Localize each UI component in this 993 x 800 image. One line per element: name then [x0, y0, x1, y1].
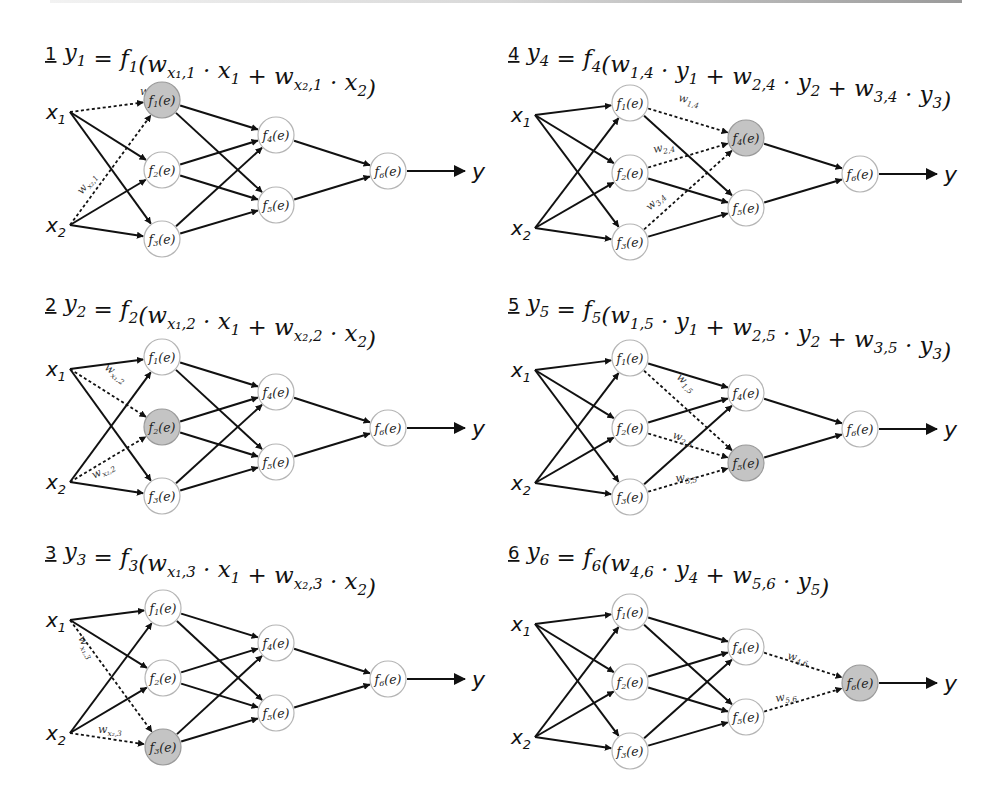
edge-x1-f1: [535, 105, 611, 115]
neuron-f1: f1(e): [612, 340, 648, 376]
neuron-label: f2(e): [148, 163, 176, 179]
step-equation: 2 y2 = f2(wx₁,2 · x1 + wx₂,2 · x2): [45, 290, 376, 352]
neuron-f2: f2(e): [612, 664, 648, 700]
step-number: 2: [45, 294, 56, 315]
neuron-f4: f4(e): [258, 374, 294, 410]
edge-x2-f3: [70, 225, 143, 236]
weight-label: wx₂,1: [74, 170, 100, 198]
input-label-x2: x2: [45, 470, 66, 497]
neuron-label: f6(e): [846, 167, 874, 183]
output-label-y: y: [471, 667, 486, 692]
edge-f5-f6: [294, 434, 370, 457]
edge-f3-f5: [648, 213, 728, 236]
neuron-f1: f1(e): [144, 339, 180, 375]
neuron-f4: f4(e): [258, 625, 294, 661]
step-equation: 6 y6 = f6(w4,6 · y4 + w5,6 · y5): [508, 538, 829, 600]
neuron-label: f5(e): [262, 455, 290, 471]
neuron-f3: f3(e): [144, 221, 180, 257]
edge-f4-f6: [764, 399, 842, 424]
neuron-f4: f4(e): [728, 629, 764, 665]
neuron-label: f2(e): [148, 420, 176, 436]
edge-f5-f6: [764, 179, 842, 202]
edge-f3-f4: [644, 660, 732, 739]
panel-step-6: 6 y6 = f6(w4,6 · y4 + w5,6 · y5)w4,6w5,6…: [508, 538, 958, 769]
step-number: 4: [508, 43, 519, 64]
neuron-label: f1(e): [616, 351, 644, 367]
neuron-f1: f1(e): [612, 85, 648, 121]
edge-x1-f1: [535, 360, 611, 370]
neuron-label: f1(e): [148, 93, 176, 109]
edge-f3-f5: [648, 722, 728, 745]
edge-f5-f6: [764, 434, 842, 457]
step-number: 1: [45, 43, 56, 64]
neuron-label: f4(e): [262, 385, 290, 401]
input-label-x1: x1: [510, 612, 531, 639]
neuron-label: f1(e): [616, 605, 644, 621]
edge-x2-f3: [535, 737, 611, 748]
input-label-x2: x2: [45, 213, 66, 240]
weighted-edge-x2-f1: [70, 115, 151, 225]
neuron-label: f5(e): [732, 201, 760, 217]
neuron-label: f2(e): [616, 421, 644, 437]
neuron-label: f6(e): [374, 421, 402, 437]
panel-step-3: 3 y3 = f3(wx₁,3 · x1 + wx₂,3 · x2)wx₁,3w…: [45, 538, 486, 765]
weighted-edge-x1-f1: [70, 102, 143, 112]
neuron-label: f3(e): [616, 744, 644, 760]
weight-label: w3,5: [675, 469, 698, 487]
neuron-f6-active: f6(e): [842, 665, 878, 701]
neuron-f4-active: f4(e): [728, 120, 764, 156]
output-label-y: y: [943, 417, 958, 442]
edge-f4-f6: [294, 141, 370, 165]
edge-x1-f1: [70, 610, 144, 620]
step-number: 3: [45, 542, 56, 563]
output-label-y: y: [943, 162, 958, 187]
neuron-f3: f3(e): [612, 733, 648, 769]
neuron-label: f5(e): [732, 456, 760, 472]
neuron-f3: f3(e): [612, 479, 648, 515]
edge-x2-f3: [70, 482, 143, 493]
neuron-label: f5(e): [262, 198, 290, 214]
neuron-label: f3(e): [616, 235, 644, 251]
edge-f5-f6: [294, 177, 370, 200]
neuron-label: f1(e): [149, 601, 177, 617]
neuron-label: f3(e): [148, 489, 176, 505]
neuron-f2: f2(e): [144, 152, 180, 188]
step-number: 5: [508, 294, 519, 315]
panel-step-4: 4 y4 = f4(w1,4 · y1 + w2,4 · y2 + w3,4 ·…: [508, 39, 958, 260]
panel-step-2: 2 y2 = f2(wx₁,2 · x1 + wx₂,2 · x2)wx₁,2w…: [45, 290, 486, 514]
neuron-label: f6(e): [374, 672, 402, 688]
neuron-label: f4(e): [732, 640, 760, 656]
edge-f3-f5: [180, 467, 258, 490]
edge-f1-f4: [180, 363, 258, 387]
neuron-f3-active: f3(e): [145, 729, 181, 765]
step-equation: 5 y5 = f5(w1,5 · y1 + w2,5 · y2 + w3,5 ·…: [508, 290, 951, 364]
input-label-x1: x1: [45, 357, 66, 384]
backpropagation-forward-pass-diagram: 1 y1 = f1(wx₁,1 · x1 + wx₂,1 · x2)wx₁,1w…: [0, 0, 993, 800]
neuron-label: f3(e): [149, 740, 177, 756]
edge-f1-f4: [648, 617, 728, 641]
edge-x2-f3: [535, 228, 611, 239]
neuron-label: f5(e): [732, 710, 760, 726]
neuron-label: f3(e): [148, 232, 176, 248]
neuron-f4: f4(e): [728, 375, 764, 411]
neuron-f6: f6(e): [842, 411, 878, 447]
weight-label: wx₂,3: [98, 723, 122, 738]
neuron-f6: f6(e): [842, 156, 878, 192]
step-equation: 3 y3 = f3(wx₁,3 · x1 + wx₂,3 · x2): [45, 538, 376, 600]
edge-f3-f5: [181, 718, 258, 741]
neuron-label: f4(e): [262, 128, 290, 144]
output-label-y: y: [943, 671, 958, 696]
neuron-f1-active: f1(e): [144, 82, 180, 118]
weight-label: w4,6: [786, 649, 810, 668]
neuron-label: f1(e): [616, 96, 644, 112]
neuron-label: f5(e): [262, 706, 290, 722]
neuron-f6: f6(e): [370, 410, 406, 446]
input-label-x1: x1: [510, 103, 531, 130]
edge-x1-f1: [535, 614, 611, 624]
input-label-x2: x2: [510, 725, 531, 752]
neuron-label: f3(e): [616, 490, 644, 506]
neuron-label: f2(e): [616, 166, 644, 182]
edge-f4-f6: [294, 649, 370, 673]
neuron-label: f6(e): [374, 164, 402, 180]
neuron-f2: f2(e): [612, 155, 648, 191]
